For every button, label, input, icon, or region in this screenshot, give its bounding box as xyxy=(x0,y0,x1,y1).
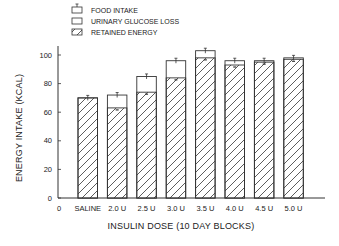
x-tick-label: SALINE xyxy=(74,204,101,213)
bar-group: 5.0 U xyxy=(284,55,304,213)
retained-energy-bar xyxy=(254,62,274,198)
hatched-box-icon xyxy=(72,29,82,35)
y-tick-label: 20 xyxy=(44,165,52,174)
x-tick-label: 3.0 U xyxy=(167,204,185,213)
x-tick-label: 2.0 U xyxy=(108,204,126,213)
y-tick-label: 100 xyxy=(39,51,52,60)
legend: FOOD INTAKEURINARY GLUCOSE LOSSRETAINED … xyxy=(72,4,179,36)
x-tick-label: 2.5 U xyxy=(138,204,156,213)
legend-label: FOOD INTAKE xyxy=(91,7,138,14)
open-box-icon xyxy=(72,18,82,24)
bar-group: 3.0 U xyxy=(166,58,186,213)
retained-energy-bar xyxy=(107,108,127,198)
bars: SALINE2.0 U2.5 U3.0 U3.5 U4.0 U4.5 U5.0 … xyxy=(74,48,303,213)
retained-energy-bar xyxy=(284,59,304,198)
y-tick-label: 80 xyxy=(44,79,52,88)
x-tick-label: 4.5 U xyxy=(255,204,273,213)
y-tick-label: 60 xyxy=(44,108,52,117)
legend-item: RETAINED ENERGY xyxy=(72,29,158,36)
x-tick-label: 3.5 U xyxy=(196,204,214,213)
legend-label: RETAINED ENERGY xyxy=(91,29,158,36)
retained-energy-bar xyxy=(166,78,186,198)
bar-group: 4.5 U xyxy=(254,58,274,213)
x-origin-label: 0 xyxy=(57,204,61,213)
retained-energy-bar xyxy=(196,58,216,198)
legend-item: URINARY GLUCOSE LOSS xyxy=(72,18,179,25)
bar-group: 4.0 U xyxy=(225,58,245,213)
retained-energy-bar xyxy=(78,98,98,198)
legend-label: URINARY GLUCOSE LOSS xyxy=(91,18,179,25)
x-tick-label: 5.0 U xyxy=(285,204,303,213)
y-tick-label: 0 xyxy=(48,194,52,203)
bar-group: SALINE xyxy=(74,95,101,213)
bar-group: 2.5 U xyxy=(137,74,157,213)
retained-energy-bar xyxy=(137,92,157,198)
y-tick-label: 40 xyxy=(44,136,52,145)
y-axis-title: ENERGY INTAKE (KCAL) xyxy=(14,74,24,182)
bar-chart: FOOD INTAKEURINARY GLUCOSE LOSSRETAINED … xyxy=(0,0,339,246)
bar-group: 3.5 U xyxy=(196,48,216,213)
retained-energy-bar xyxy=(225,65,245,198)
x-axis-title: INSULIN DOSE (10 DAY BLOCKS) xyxy=(108,221,255,231)
x-tick-label: 4.0 U xyxy=(226,204,244,213)
bar-group: 2.0 U xyxy=(107,93,127,213)
legend-item: FOOD INTAKE xyxy=(72,4,138,14)
errorbar-box-icon xyxy=(72,7,82,13)
